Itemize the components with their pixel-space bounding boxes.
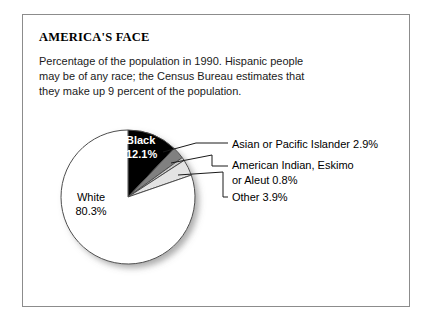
callout-american-indian-eskimo-or-aleut: American Indian, Eskimo or Aleut 0.8% bbox=[232, 158, 354, 187]
slice-label-black-value: 12.1% bbox=[126, 147, 180, 161]
slice-label-white-value: 80.3% bbox=[58, 204, 124, 218]
chart-subtitle: Percentage of the population in 1990. Hi… bbox=[39, 54, 339, 100]
callout-american-indian-line-2: or Aleut 0.8% bbox=[232, 173, 354, 188]
page-title: AMERICA'S FACE bbox=[39, 30, 150, 45]
callout-other: Other 3.9% bbox=[232, 190, 288, 205]
callout-asian-or-pacific-islander: Asian or Pacific Islander 2.9% bbox=[232, 137, 378, 152]
slice-label-black-name: Black bbox=[126, 133, 180, 147]
callout-american-indian-line-1: American Indian, Eskimo bbox=[232, 158, 354, 173]
slice-label-black: Black 12.1% bbox=[126, 133, 180, 161]
chart-subtitle-line-1: Percentage of the population in 1990. Hi… bbox=[39, 54, 339, 69]
chart-subtitle-line-2: may be of any race; the Census Bureau es… bbox=[39, 69, 339, 84]
slice-label-white: White 80.3% bbox=[58, 190, 124, 218]
chart-subtitle-line-3: they make up 9 percent of the population… bbox=[39, 84, 339, 99]
slice-label-white-name: White bbox=[58, 190, 124, 204]
